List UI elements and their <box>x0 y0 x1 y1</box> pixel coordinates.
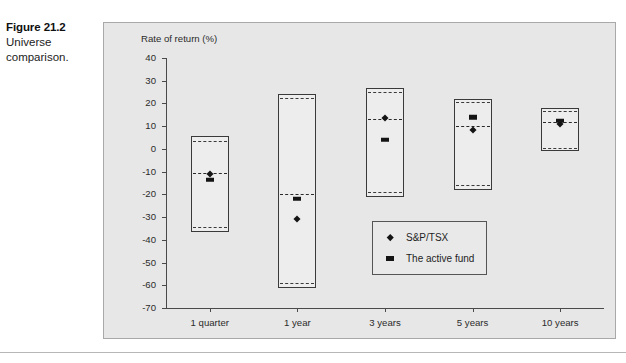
box-lower-quartile-line <box>456 185 490 186</box>
box-lower-quartile-line <box>280 283 314 284</box>
y-axis-tick-label: 10 <box>122 121 156 131</box>
x-axis-tick-label: 3 years <box>350 317 420 328</box>
box-upper-quartile-line <box>280 98 314 99</box>
y-axis-tick-label: 40 <box>122 53 156 63</box>
box-upper-quartile-line <box>368 92 402 93</box>
chart-legend: S&P/TSX The active fund <box>372 221 487 275</box>
legend-label-sp-tsx: S&P/TSX <box>406 232 448 243</box>
y-axis-tick <box>162 172 166 173</box>
y-axis-tick-label: -40 <box>122 235 156 245</box>
box-upper-quartile-line <box>456 102 490 103</box>
y-axis-tick <box>162 58 166 59</box>
y-axis-tick-label: 30 <box>122 76 156 86</box>
box-upper-quartile-line <box>543 111 577 112</box>
legend-label-active-fund: The active fund <box>406 253 474 264</box>
y-axis-tick <box>162 263 166 264</box>
y-axis-tick <box>162 149 166 150</box>
box-plot-box <box>454 99 492 190</box>
box-plot-box <box>191 136 229 231</box>
box-median-line <box>280 194 314 195</box>
figure-panel: Rate of return (%) 403020100-10-20-30-40… <box>103 22 616 339</box>
y-axis-tick-label: -50 <box>122 258 156 268</box>
square-marker-icon <box>383 256 397 261</box>
y-axis-line <box>166 58 167 308</box>
y-axis-tick-label: 0 <box>122 144 156 154</box>
x-axis-tick-label: 5 years <box>438 317 508 328</box>
box-plot-chart: Rate of return (%) 403020100-10-20-30-40… <box>104 23 616 339</box>
box-plot-box <box>541 108 579 151</box>
figure-number: Figure 21.2 <box>6 20 98 35</box>
data-point-active-fund <box>293 197 301 202</box>
y-axis-tick-label: -70 <box>122 303 156 313</box>
y-axis-tick <box>162 194 166 195</box>
x-axis-tick <box>473 308 474 312</box>
y-axis-tick <box>162 308 166 309</box>
x-axis-tick-label: 1 quarter <box>175 317 245 328</box>
data-point-active-fund <box>206 177 214 182</box>
y-axis-tick <box>162 240 166 241</box>
y-axis-tick <box>162 126 166 127</box>
figure-caption: Figure 21.2 Universe comparison. <box>6 20 98 65</box>
x-axis-tick <box>210 308 211 312</box>
x-axis-tick <box>560 308 561 312</box>
box-lower-quartile-line <box>543 148 577 149</box>
data-point-active-fund <box>469 115 477 120</box>
y-axis-tick <box>162 285 166 286</box>
box-plot-box <box>366 88 404 197</box>
y-axis-tick <box>162 103 166 104</box>
figure-title: Universe comparison. <box>6 35 98 65</box>
y-axis-tick-label: 20 <box>122 98 156 108</box>
box-lower-quartile-line <box>193 227 227 228</box>
y-axis-tick-label: -10 <box>122 167 156 177</box>
x-axis-tick-label: 1 year <box>262 317 332 328</box>
legend-item-active-fund: The active fund <box>383 250 474 267</box>
x-axis-tick <box>297 308 298 312</box>
box-plot-box <box>278 94 316 287</box>
diamond-marker-icon <box>383 235 397 240</box>
box-upper-quartile-line <box>193 141 227 142</box>
x-axis-tick-label: 10 years <box>525 317 595 328</box>
data-point-active-fund <box>556 118 564 123</box>
data-point-active-fund <box>381 138 389 143</box>
y-axis-tick <box>162 81 166 82</box>
y-axis-tick-label: -20 <box>122 189 156 199</box>
y-axis-tick-label: -30 <box>122 212 156 222</box>
legend-item-sp-tsx: S&P/TSX <box>383 229 474 246</box>
y-axis-tick-label: -60 <box>122 280 156 290</box>
y-axis-title: Rate of return (%) <box>141 33 217 44</box>
page-divider <box>0 352 626 353</box>
box-lower-quartile-line <box>368 192 402 193</box>
y-axis-tick <box>162 217 166 218</box>
x-axis-tick <box>385 308 386 312</box>
